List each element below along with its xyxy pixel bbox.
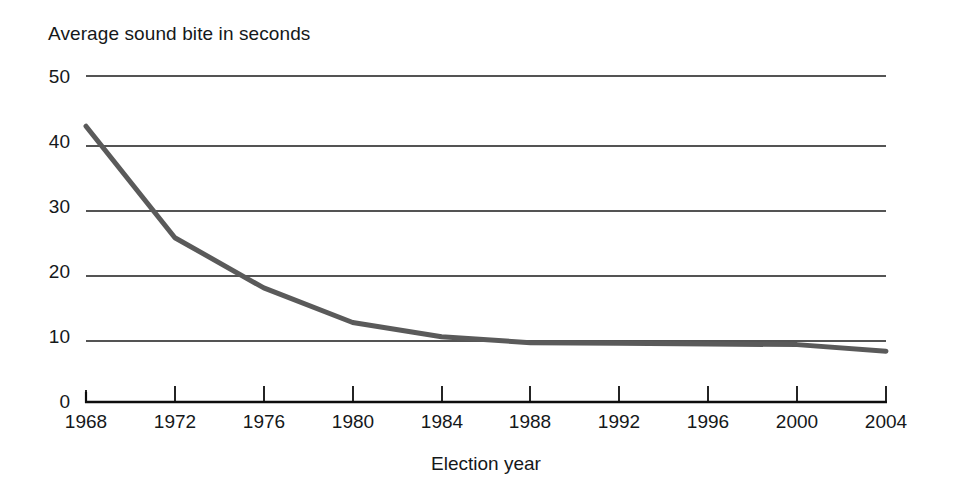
x-tick-label-1976: 1976 [229, 412, 299, 431]
x-axis-ticks [86, 386, 886, 402]
x-tick-label-1968: 1968 [51, 412, 121, 431]
gridlines [86, 76, 886, 341]
x-axis-title: Election year [0, 452, 956, 476]
x-tick-label-1992: 1992 [584, 412, 654, 431]
x-tick-label-2004: 2004 [851, 412, 921, 431]
x-axis-title-text: Election year [431, 452, 541, 476]
x-tick-label-2000: 2000 [762, 412, 832, 431]
x-tick-label-1988: 1988 [495, 412, 565, 431]
x-tick-label-1972: 1972 [140, 412, 210, 431]
axis-lines [85, 392, 887, 403]
data-line-sound-bite [86, 126, 886, 351]
sound-bite-line-chart: Average sound bite in seconds 50 40 30 2… [0, 0, 956, 499]
x-tick-label-1996: 1996 [673, 412, 743, 431]
x-tick-label-1984: 1984 [407, 412, 477, 431]
x-tick-label-1980: 1980 [318, 412, 388, 431]
